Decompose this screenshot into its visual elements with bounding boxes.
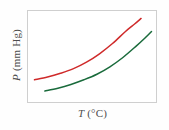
y-axis-label: P (mm Hg) <box>8 8 24 102</box>
x-axis-label-units: (°C) <box>87 107 107 119</box>
upper-curve-red <box>35 18 142 79</box>
pressure-temperature-chart: P (mm Hg) T (°C) <box>0 0 169 130</box>
y-axis-label-variable: P <box>10 74 22 81</box>
y-axis-label-spacer <box>10 71 22 74</box>
x-axis-label: T (°C) <box>27 106 158 120</box>
plot-frame <box>27 10 157 103</box>
lower-curve-green <box>45 31 152 91</box>
y-axis-label-units: (mm Hg) <box>10 29 22 71</box>
plot-area <box>28 11 158 104</box>
